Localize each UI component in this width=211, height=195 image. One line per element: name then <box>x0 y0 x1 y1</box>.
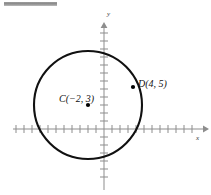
center-point-C-label: C(−2, 3) <box>59 93 95 105</box>
coordinate-plane-figure: C(−2, 3) D(4, 5) y x <box>0 0 211 195</box>
circle-point-D-label: D(4, 5) <box>137 78 168 90</box>
figure-container: C(−2, 3) D(4, 5) y x <box>0 0 211 195</box>
circle-point-D-marker <box>131 85 135 89</box>
x-axis-arrow-icon <box>203 126 209 133</box>
y-axis-label: y <box>106 10 111 18</box>
y-axis-arrow-icon <box>101 22 108 28</box>
x-axis-label: x <box>195 134 200 142</box>
